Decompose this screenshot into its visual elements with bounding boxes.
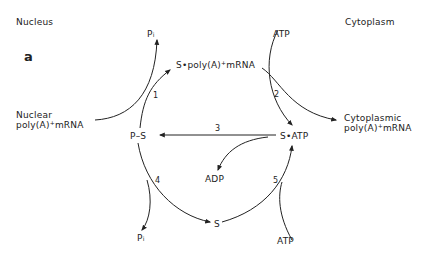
nuclear-pre: poly(A) [16, 120, 50, 130]
panel-label: a [24, 49, 33, 64]
s-polya-sup: + [221, 59, 226, 66]
node-cytoplasmic-mrna-line1: Cytoplasmic [344, 113, 401, 123]
nuclear-sup: + [50, 119, 55, 126]
node-s-polya-mrna: S•poly(A)+mRNA [176, 60, 255, 70]
region-label-cytoplasm: Cytoplasm [345, 17, 395, 27]
nuclear-post: mRNA [55, 120, 84, 130]
node-s-atp: S•ATP [280, 131, 308, 141]
node-pi-top: Pi [147, 29, 155, 39]
step-label-4: 4 [155, 176, 160, 185]
pi-top-sub: i [153, 31, 155, 38]
node-adp: ADP [205, 174, 224, 184]
node-s: S [214, 219, 220, 229]
step-label-1: 1 [153, 91, 158, 100]
node-nuclear-mrna-line2: poly(A)+mRNA [16, 120, 84, 130]
s-polya-post: mRNA [226, 60, 255, 70]
arrow-step5-atp [280, 182, 292, 240]
step-label-3: 3 [215, 124, 220, 133]
cyto-post: mRNA [383, 123, 412, 133]
node-atp-top: ATP [273, 29, 290, 39]
arrow-step1-pi [95, 40, 157, 120]
node-pi-bottom: Pi [137, 233, 145, 243]
pi-bottom-sub: i [143, 235, 145, 242]
arrow-step4-s [138, 143, 210, 222]
s-polya-pre: S•poly(A) [176, 60, 221, 70]
cyto-pre: poly(A) [344, 123, 378, 133]
node-atp-bottom: ATP [277, 236, 294, 246]
step-label-2: 2 [274, 90, 279, 99]
pi-top-base: P [147, 29, 153, 39]
node-nuclear-mrna-line1: Nuclear [16, 110, 52, 120]
region-label-nucleus: Nucleus [16, 17, 53, 27]
node-p-s: P–S [130, 131, 146, 141]
step-label-5: 5 [273, 176, 278, 185]
pi-bottom-base: P [137, 233, 143, 243]
node-cytoplasmic-mrna-line2: poly(A)+mRNA [344, 123, 412, 133]
arrow-step4-pi [142, 180, 150, 230]
arrow-step3-adp [218, 137, 268, 170]
cyto-sup: + [378, 122, 383, 129]
